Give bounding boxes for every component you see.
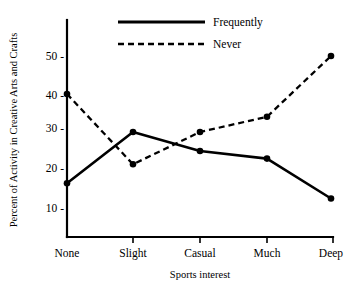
x-tick-label-none: None [55, 247, 80, 259]
y-tick-label-20: 20 - [46, 162, 64, 174]
data-point [264, 155, 271, 162]
x-tick-label-much: Much [254, 247, 281, 259]
data-point [328, 53, 335, 60]
data-point [130, 161, 137, 168]
y-tick-label-30: 30 - [46, 122, 64, 134]
x-tick-label-deep: Deep [319, 247, 344, 260]
chart-legend: Frequently Never [118, 16, 263, 50]
series-frequently-line [67, 132, 331, 199]
data-point [197, 148, 204, 155]
line-chart: Frequently Never 50 - 40 - 30 - 20 - 10 … [0, 0, 359, 288]
y-tick-label-40: 40 - [46, 89, 64, 101]
series-frequently-markers [64, 129, 335, 202]
data-point [197, 129, 204, 136]
chart-container: Frequently Never 50 - 40 - 30 - 20 - 10 … [0, 0, 359, 288]
legend-label-frequently: Frequently [213, 16, 263, 29]
x-tick-label-slight: Slight [119, 247, 147, 260]
y-axis-tick-labels: 50 - 40 - 30 - 20 - 10 - [46, 50, 64, 214]
data-point [328, 195, 335, 202]
x-axis-title: Sports interest [170, 269, 230, 280]
y-tick-label-50: 50 - [46, 50, 64, 62]
series-frequently [64, 129, 335, 202]
data-point [64, 180, 71, 187]
y-tick-label-10: 10 - [46, 202, 64, 214]
y-axis-title: Percent of Activity in Creative Arts and… [8, 33, 19, 228]
data-point [64, 91, 71, 98]
x-tick-label-casual: Casual [184, 247, 215, 259]
x-axis-tick-labels: None Slight Casual Much Deep [55, 247, 344, 260]
data-point [130, 129, 137, 136]
data-point [264, 114, 271, 121]
legend-label-never: Never [213, 38, 241, 50]
